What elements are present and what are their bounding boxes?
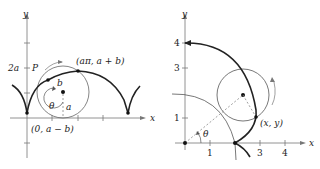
left-x-arrow-icon	[140, 116, 146, 120]
top-point-dot	[76, 69, 80, 73]
right-theta-arc	[198, 133, 201, 143]
bottom-point-label: (0, a − b)	[31, 124, 74, 134]
trochoid-curve	[12, 71, 140, 113]
origin-dot	[183, 141, 187, 145]
top-point-label: (aπ, a + b)	[76, 56, 125, 66]
right-theta-label: θ	[203, 129, 209, 139]
motion-arrow-icon	[58, 60, 63, 64]
right-x-label: x	[309, 138, 314, 148]
point-P-dot	[46, 78, 50, 82]
right-motion-arc	[272, 82, 275, 105]
cusp-left-dot	[25, 111, 29, 115]
y-tick-2a-label: 2a	[7, 63, 19, 73]
dashed-center-line	[185, 95, 243, 143]
theta-arrow-icon	[52, 86, 56, 91]
y-tick-4-label: 4	[174, 38, 180, 48]
x-tick-3-label: 3	[257, 148, 263, 158]
y-tick-3-label: 3	[174, 63, 180, 73]
cusp-right-dot	[126, 111, 130, 115]
x-tick-4-label: 4	[282, 148, 288, 158]
left-x-label: x	[150, 113, 155, 123]
xy-point-label: (x, y)	[260, 118, 283, 128]
radius-b-label: b	[57, 78, 63, 88]
point-P-label: P	[31, 63, 39, 73]
right-figure: y x 1 3 4 1 3 4 (x, y) θ	[172, 9, 314, 160]
right-motion-arrow-icon	[270, 77, 275, 82]
right-y-label: y	[181, 9, 188, 19]
radius-a-label: a	[66, 102, 71, 112]
left-y-label: y	[22, 9, 29, 19]
left-figure: y x 2a P (aπ, a + b) (0, a − b) b a θ	[7, 9, 155, 158]
y-tick-1-label: 1	[174, 113, 180, 123]
x-tick-1-label: 1	[207, 148, 213, 158]
right-theta-arrow-icon	[196, 131, 200, 135]
right-x-arrow-icon	[300, 141, 306, 145]
circle-center-dot	[61, 90, 65, 94]
diagram-canvas: y x 2a P (aπ, a + b) (0, a − b) b a θ	[0, 0, 320, 169]
cusp-dot	[233, 141, 237, 145]
angle-theta-label: θ	[49, 101, 55, 111]
xy-point-dot	[254, 115, 258, 119]
